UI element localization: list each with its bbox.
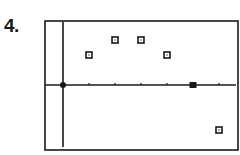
data-point-center xyxy=(218,129,219,130)
scatter-plot xyxy=(0,0,240,155)
data-point-center xyxy=(140,39,141,40)
data-point-filled xyxy=(190,82,197,88)
origin-dot xyxy=(60,82,66,88)
data-point-center xyxy=(114,39,115,40)
data-point-center xyxy=(88,54,89,55)
data-point-center xyxy=(166,54,167,55)
